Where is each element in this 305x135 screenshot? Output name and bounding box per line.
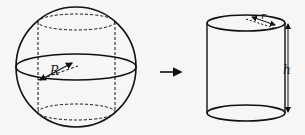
diagram-canvas: R r h	[0, 0, 305, 135]
cylinder: r h	[207, 10, 291, 121]
sphere-equator-front	[16, 67, 136, 80]
cylinder-bottom-front	[207, 113, 285, 121]
diagram-svg: R r h	[0, 0, 305, 135]
radius-label-R: R	[49, 64, 59, 78]
height-label-h: h	[283, 63, 291, 77]
cylinder-bottom-back	[207, 105, 285, 113]
sphere-equator-back	[16, 54, 136, 67]
cylinder-top	[207, 15, 285, 31]
sphere: R	[16, 7, 136, 127]
